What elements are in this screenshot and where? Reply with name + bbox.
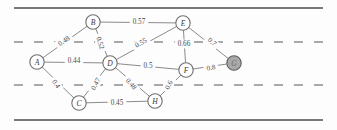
edge-weight-c-h: 0.45 (108, 99, 127, 108)
edge-weight-text: 0.45 (111, 99, 124, 107)
edge-weight-b-d: 0.52 (93, 33, 107, 53)
edge-weight-c-d: 0.47 (88, 74, 105, 95)
graph-node-a[interactable]: A (30, 55, 44, 69)
graph-node-c[interactable]: C (72, 96, 86, 110)
edge-weight-d-h: 0.48 (122, 74, 141, 94)
node-label: A (34, 58, 40, 67)
edge-weight-d-e: 0.55 (131, 35, 152, 52)
edge-weight-e-f: 0.66 (175, 40, 194, 49)
edge-weight-text: 0.66 (178, 40, 191, 48)
edge-weight-a-b: 0.48 (54, 32, 74, 50)
edge-weight-a-d: 0.44 (65, 57, 84, 66)
node-label: D (106, 59, 113, 68)
road-layer (14, 8, 323, 120)
graph-node-g[interactable]: G (227, 56, 241, 70)
graph-node-b[interactable]: B (86, 15, 100, 29)
node-label: F (183, 66, 189, 75)
graph-node-e[interactable]: E (176, 16, 190, 30)
edge-weight-text: 0.57 (133, 18, 146, 26)
graph-node-h[interactable]: H (148, 94, 162, 108)
edge-weight-d-f: 0.5 (141, 62, 156, 71)
edge-weight-e-g: 0.7 (204, 34, 221, 50)
edge-weight-a-c: 0.4 (48, 75, 64, 92)
graph-diagram: ABCDEFGH 0.480.440.40.570.520.470.450.55… (0, 0, 337, 130)
node-label: B (91, 18, 96, 27)
graph-node-f[interactable]: F (179, 63, 193, 77)
edge-weight-f-g: 0.8 (203, 62, 219, 73)
graph-edge-label-layer: 0.480.440.40.570.520.470.450.550.50.480.… (48, 18, 220, 108)
node-label: E (180, 19, 186, 28)
edge-weight-text: 0.8 (206, 63, 217, 73)
edge-weight-text: 0.44 (68, 57, 81, 65)
edge-weight-text: 0.5 (144, 62, 153, 70)
graph-node-d[interactable]: D (103, 56, 117, 70)
edge-weight-b-e: 0.57 (130, 18, 149, 27)
figure-canvas: ABCDEFGH 0.480.440.40.570.520.470.450.55… (0, 0, 337, 130)
node-label: G (231, 59, 237, 68)
node-label: H (151, 97, 158, 106)
